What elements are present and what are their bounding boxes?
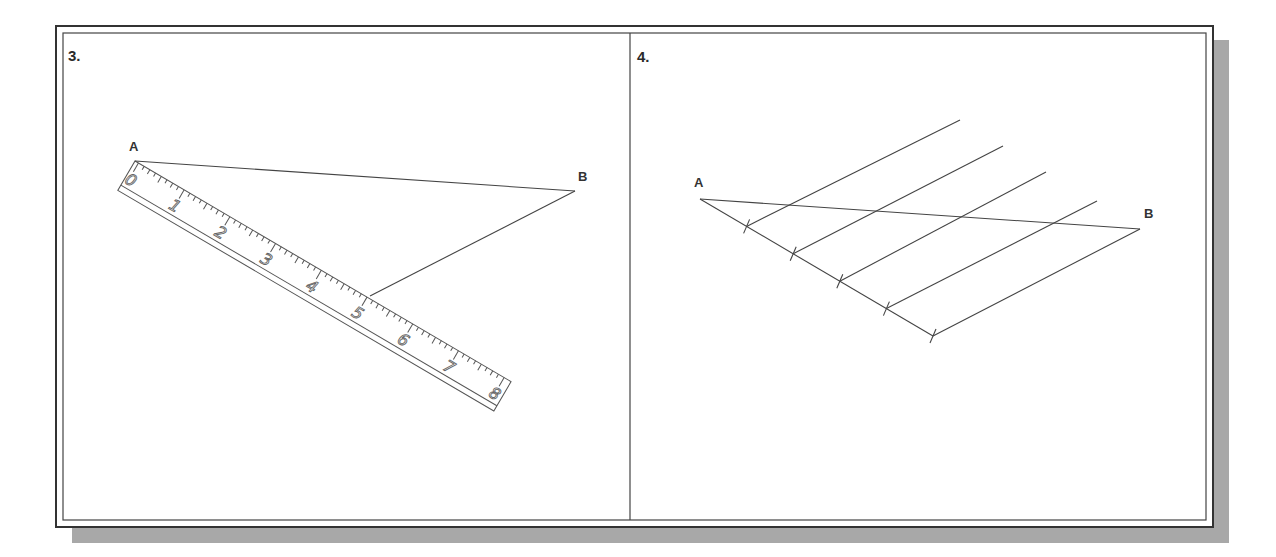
panel-4-label: 4. <box>637 48 650 65</box>
point-B-label: B <box>578 169 587 184</box>
figure-svg: 012345678 A B A B <box>0 0 1276 557</box>
figure-canvas: 012345678 A B A B 3. 4. <box>0 0 1276 557</box>
inner-frame <box>63 33 1206 520</box>
point-A-label: A <box>129 139 139 154</box>
frame-shadow-bottom <box>72 527 1229 543</box>
point-A-label: A <box>694 175 704 190</box>
frame-shadow-right <box>1213 40 1229 543</box>
panel-3-label: 3. <box>68 47 81 64</box>
point-B-label: B <box>1144 206 1153 221</box>
